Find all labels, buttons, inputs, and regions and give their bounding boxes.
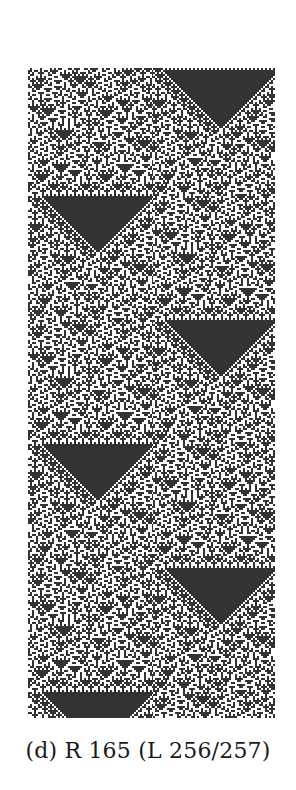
cellular-automaton-spacetime-diagram <box>28 68 275 718</box>
figure-caption: (d) R 165 (L 256/257) <box>0 738 296 763</box>
figure-panel: (d) R 165 (L 256/257) <box>0 0 296 790</box>
